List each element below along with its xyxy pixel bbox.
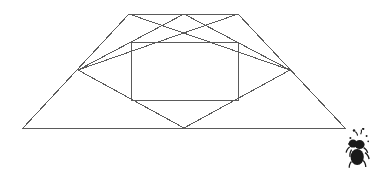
ant-logo [342, 128, 376, 171]
inner-rhombus [78, 14, 290, 128]
watermark-text [36, 150, 316, 162]
inner-rectangle [131, 42, 238, 100]
outer-trapezoid [23, 14, 345, 128]
geometry-drawing [0, 0, 376, 171]
figure-canvas [0, 0, 376, 171]
